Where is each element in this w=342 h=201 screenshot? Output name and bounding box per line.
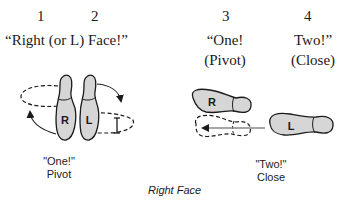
pivot-figure: R L — [21, 75, 134, 140]
close-caption: "Two!" Close — [250, 158, 292, 184]
close-right-foot-label: R — [208, 96, 216, 108]
close-left-foot-label: L — [288, 120, 295, 132]
pivot-caption-line2: Pivot — [38, 168, 80, 181]
close-right-foot-icon — [192, 89, 251, 112]
pivot-caption: "One!" Pivot — [38, 155, 80, 181]
pivot-arrow-right-icon — [97, 84, 121, 101]
pivot-right-foot-label: R — [61, 114, 69, 126]
close-caption-line1: "Two!" — [250, 158, 292, 171]
pivot-right-foot-icon — [56, 75, 76, 140]
pivot-caption-line1: "One!" — [38, 155, 80, 168]
close-left-foot-icon — [270, 113, 333, 135]
pivot-left-foot-label: L — [86, 114, 93, 126]
close-figure: R L — [192, 89, 333, 136]
diagram-title: Right Face — [148, 184, 201, 196]
pivot-left-foot-icon — [80, 75, 99, 140]
pivot-arrow-left-icon — [30, 112, 56, 134]
close-dashed-ghost — [195, 115, 250, 136]
pivot-dashed-ghost-left — [21, 85, 58, 106]
close-caption-line2: Close — [250, 171, 292, 184]
